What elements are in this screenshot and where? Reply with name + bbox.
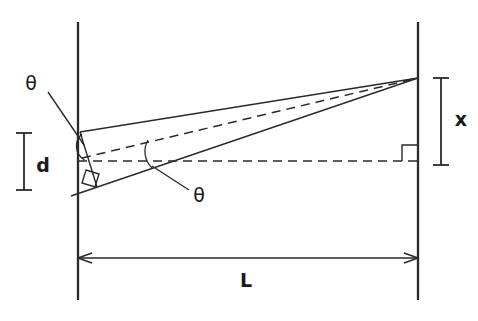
label-theta-lower: θ (193, 184, 205, 206)
fringe-offset-bracket (433, 78, 449, 165)
leader-line-theta-lower (152, 166, 189, 190)
label-slit-separation-d: d (36, 154, 50, 176)
screen-distance-dimension (78, 253, 418, 263)
ray-upper-solid (80, 78, 418, 132)
label-screen-distance-L: L (240, 269, 252, 291)
physics-diagram-canvas: θ θ d x L (0, 0, 478, 321)
ray-lower-solid (71, 78, 418, 196)
angle-arc-at-axis (145, 140, 152, 168)
right-angle-marker-screen (402, 145, 417, 161)
label-theta-upper: θ (25, 72, 37, 94)
right-angle-marker-slit (82, 170, 99, 187)
diagram-svg: θ θ d x L (0, 0, 478, 321)
slit-separation-bracket (16, 133, 32, 190)
label-fringe-offset-x: x (455, 108, 467, 130)
bisector-dashed (82, 78, 418, 158)
